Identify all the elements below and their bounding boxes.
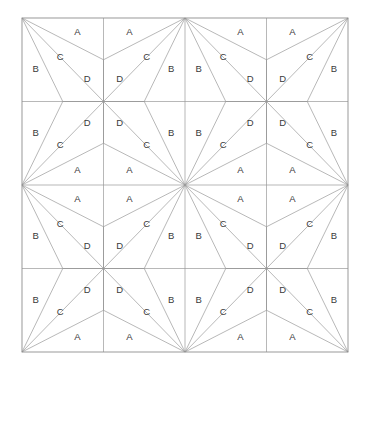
- region-label-d-r2-c1: D: [116, 240, 123, 251]
- region-label-b-r1-c1: B: [168, 127, 175, 138]
- region-label-c-r3-c2: C: [220, 306, 227, 317]
- region-label-b-r1-c0: B: [33, 127, 40, 138]
- region-label-b-r2-c0: B: [33, 230, 40, 241]
- region-label-c-r3-c0: C: [57, 306, 64, 317]
- region-label-a-r0-c2: A: [237, 26, 244, 37]
- cell-divider-r3-c1-to-edge-mid-b: [144, 269, 185, 353]
- cell-divider-r1-c1-to-edge-mid-b: [144, 102, 185, 186]
- region-label-d-r1-c0: D: [84, 117, 91, 128]
- region-label-a-r1-c3: A: [289, 164, 296, 175]
- region-label-d-r0-c0: D: [84, 73, 91, 84]
- region-label-b-r2-c2: B: [196, 230, 203, 241]
- cell-divider-r2-c3-to-edge-mid-b: [307, 185, 348, 269]
- region-label-a-r0-c1: A: [126, 26, 133, 37]
- region-label-c-r0-c2: C: [220, 51, 227, 62]
- region-label-a-r1-c1: A: [126, 164, 133, 175]
- region-label-c-r0-c3: C: [306, 51, 313, 62]
- region-label-c-r3-c1: C: [143, 306, 150, 317]
- region-label-d-r1-c2: D: [247, 117, 254, 128]
- region-label-d-r1-c1: D: [116, 117, 123, 128]
- region-label-b-r2-c3: B: [331, 230, 338, 241]
- cell-divider-r2-c1-to-edge-mid-b: [144, 185, 185, 269]
- region-label-c-r2-c1: C: [143, 218, 150, 229]
- region-label-a-r0-c0: A: [74, 26, 81, 37]
- region-label-a-r2-c1: A: [126, 193, 133, 204]
- region-label-b-r3-c3: B: [331, 294, 338, 305]
- region-label-d-r2-c3: D: [279, 240, 286, 251]
- region-label-a-r2-c2: A: [237, 193, 244, 204]
- region-label-c-r1-c3: C: [306, 139, 313, 150]
- region-label-d-r3-c0: D: [84, 284, 91, 295]
- region-label-d-r2-c0: D: [84, 240, 91, 251]
- region-label-b-r3-c0: B: [33, 294, 40, 305]
- region-label-c-r3-c3: C: [306, 306, 313, 317]
- region-label-b-r2-c1: B: [168, 230, 175, 241]
- region-label-d-r3-c1: D: [116, 284, 123, 295]
- region-label-c-r0-c1: C: [143, 51, 150, 62]
- region-label-d-r0-c3: D: [279, 73, 286, 84]
- region-label-d-r3-c3: D: [279, 284, 286, 295]
- region-label-c-r2-c2: C: [220, 218, 227, 229]
- region-label-b-r0-c0: B: [33, 63, 40, 74]
- region-label-a-r3-c0: A: [74, 331, 81, 342]
- region-label-a-r2-c3: A: [289, 193, 296, 204]
- region-label-c-r2-c3: C: [306, 218, 313, 229]
- region-label-a-r1-c0: A: [74, 164, 81, 175]
- region-label-d-r1-c3: D: [279, 117, 286, 128]
- cell-divider-r0-c3-to-edge-mid-b: [307, 18, 348, 102]
- region-label-c-r2-c0: C: [57, 218, 64, 229]
- region-label-b-r0-c2: B: [196, 63, 203, 74]
- region-label-c-r1-c0: C: [57, 139, 64, 150]
- region-label-b-r0-c3: B: [331, 63, 338, 74]
- region-label-c-r1-c2: C: [220, 139, 227, 150]
- cell-divider-r1-c3-to-edge-mid-b: [307, 102, 348, 186]
- region-label-b-r0-c1: B: [168, 63, 175, 74]
- region-label-b-r1-c2: B: [196, 127, 203, 138]
- tiling-diagram: ACBDACBDACBDACBDACBDACBDACBDACBDACBDACBD…: [0, 0, 370, 438]
- region-label-d-r2-c2: D: [247, 240, 254, 251]
- region-label-a-r0-c3: A: [289, 26, 296, 37]
- region-label-a-r3-c1: A: [126, 331, 133, 342]
- region-label-a-r3-c3: A: [289, 331, 296, 342]
- figure-root: ACBDACBDACBDACBDACBDACBDACBDACBDACBDACBD…: [0, 0, 370, 438]
- region-label-c-r0-c0: C: [57, 51, 64, 62]
- region-label-d-r0-c1: D: [116, 73, 123, 84]
- region-label-a-r1-c2: A: [237, 164, 244, 175]
- region-label-b-r3-c1: B: [168, 294, 175, 305]
- region-label-c-r1-c1: C: [143, 139, 150, 150]
- region-label-a-r3-c2: A: [237, 331, 244, 342]
- region-label-d-r0-c2: D: [247, 73, 254, 84]
- region-label-b-r1-c3: B: [331, 127, 338, 138]
- cell-divider-r3-c3-to-edge-mid-b: [307, 269, 348, 353]
- cell-divider-r0-c1-to-edge-mid-b: [144, 18, 185, 102]
- region-label-d-r3-c2: D: [247, 284, 254, 295]
- region-label-b-r3-c2: B: [196, 294, 203, 305]
- region-label-a-r2-c0: A: [74, 193, 81, 204]
